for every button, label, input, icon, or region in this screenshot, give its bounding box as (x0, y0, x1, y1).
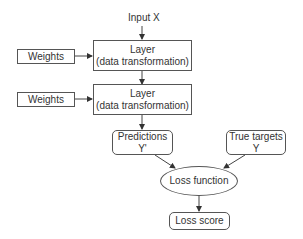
predictions-title: Predictions (118, 131, 167, 143)
layer-box-1: Layer (data transformation) (93, 40, 192, 71)
arrow-targets-to-loss (224, 155, 245, 168)
arrow-predictions-to-loss (155, 155, 175, 168)
loss-function-label: Loss function (170, 175, 229, 187)
layer-subtitle: (data transformation) (96, 56, 189, 68)
input-x-label: Input X (128, 12, 160, 23)
weights-box-1: Weights (17, 49, 75, 64)
predictions-subtitle: Y' (138, 143, 147, 155)
loss-function-ellipse: Loss function (160, 166, 238, 196)
weights-label: Weights (28, 51, 64, 63)
weights-box-2: Weights (17, 92, 75, 107)
loss-score-label: Loss score (175, 215, 223, 227)
predictions-box: Predictions Y' (112, 130, 173, 155)
true-targets-title: True targets (229, 131, 283, 143)
weights-label: Weights (28, 94, 64, 106)
edges-layer (0, 0, 303, 239)
layer-subtitle: (data transformation) (96, 100, 189, 112)
layer-box-2: Layer (data transformation) (93, 84, 192, 115)
true-targets-box: True targets Y (226, 130, 286, 155)
true-targets-subtitle: Y (253, 143, 260, 155)
layer-title: Layer (130, 44, 155, 56)
layer-title: Layer (130, 88, 155, 100)
loss-score-box: Loss score (169, 212, 230, 230)
